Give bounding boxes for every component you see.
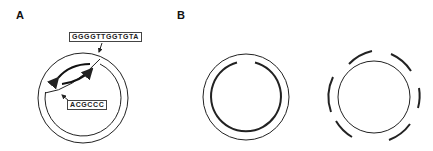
- sequence-label-top: GGGGTTGGTGTA: [69, 32, 142, 42]
- panel-b-fragmented-circle: [328, 51, 419, 140]
- double-arrow-icon: [58, 64, 92, 84]
- panel-b-nicked-circle: [203, 54, 289, 140]
- sequence-label-bottom: ACGCCC: [67, 100, 107, 110]
- diagram-canvas: [0, 0, 433, 151]
- callout-pointers: [62, 43, 102, 101]
- panel-a-plasmid: [38, 53, 128, 143]
